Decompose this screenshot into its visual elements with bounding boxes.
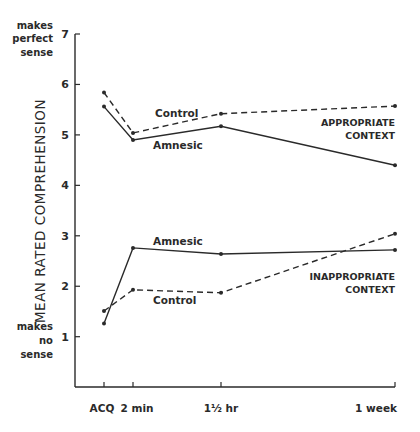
x-tick-label: 1 week (355, 402, 398, 414)
inappropriate-context-line-1: INAPPROPRIATE (309, 271, 395, 282)
data-point (393, 248, 397, 252)
y-tick-label: 2 (61, 280, 69, 293)
data-point (131, 246, 135, 250)
lower-control-label: Control (153, 294, 196, 306)
top-anchor-line-2: perfect (12, 33, 53, 44)
data-point (131, 288, 135, 292)
data-point (393, 163, 397, 167)
line-chart: 1234567ACQ2 min1½ hr1 week MEAN RATED CO… (0, 0, 420, 432)
data-point (131, 138, 135, 142)
bottom-anchor-line-3: sense (20, 349, 53, 360)
data-point (102, 322, 106, 326)
data-point (102, 91, 106, 95)
upper-control-label: Control (155, 107, 198, 119)
axes: 1234567ACQ2 min1½ hr1 week (61, 28, 398, 414)
bottom-anchor-line-1: makes (17, 321, 53, 332)
appropriate-context-line-2: CONTEXT (345, 130, 395, 141)
data-point (393, 232, 397, 236)
y-tick-label: 1 (61, 331, 69, 344)
x-tick-label: ACQ (90, 402, 115, 414)
chart-labels: MEAN RATED COMPREHENSION makes perfect s… (12, 20, 395, 360)
x-tick-label: 1½ hr (204, 402, 239, 414)
data-point (102, 309, 106, 313)
data-point (393, 104, 397, 108)
x-tick-label: 2 min (121, 402, 154, 414)
data-point (219, 124, 223, 128)
bottom-anchor-line-2: no (39, 335, 53, 346)
y-tick-label: 4 (61, 179, 69, 192)
y-tick-label: 6 (61, 78, 69, 91)
y-axis-title: MEAN RATED COMPREHENSION (32, 99, 48, 323)
data-point (102, 105, 106, 109)
top-anchor-line-3: sense (20, 47, 53, 58)
data-point (219, 252, 223, 256)
top-anchor-line-1: makes (17, 20, 53, 31)
y-tick-label: 5 (61, 129, 69, 142)
y-tick-label: 3 (61, 230, 69, 243)
data-point (219, 112, 223, 116)
data-point (219, 291, 223, 295)
appropriate-context-line-1: APPROPRIATE (321, 117, 395, 128)
inappropriate-context-line-2: CONTEXT (345, 284, 395, 295)
data-point (131, 131, 135, 135)
lower-amnesic-label: Amnesic (153, 235, 203, 247)
y-tick-label: 7 (61, 28, 69, 41)
upper-amnesic-label: Amnesic (153, 139, 203, 151)
